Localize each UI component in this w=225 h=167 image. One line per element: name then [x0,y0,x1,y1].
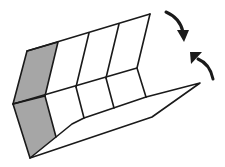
fold-up-arrow [190,52,213,79]
folding-diagram [0,0,225,167]
fold-down-arrow [166,12,189,42]
